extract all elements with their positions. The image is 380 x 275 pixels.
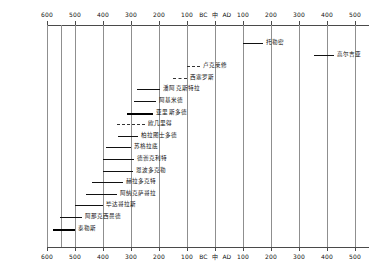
- axis-tick-label: 500: [69, 11, 81, 19]
- bar-label: 阿那克西曼德: [85, 212, 122, 221]
- bar-line: [134, 101, 156, 102]
- era-divider-marker: 中: [212, 253, 218, 261]
- bar-line: [118, 136, 138, 137]
- bar-label: 恩波多克勒: [136, 166, 167, 175]
- timeline-bar[interactable]: 毕达哥拉斯: [75, 201, 103, 210]
- bar-label: 亚里斯多德: [156, 108, 187, 117]
- timeline-bar[interactable]: 恩波多克勒: [103, 167, 133, 176]
- timeline-bar[interactable]: 亚里斯多德: [127, 109, 154, 118]
- axis-tick-label: 400: [321, 11, 333, 19]
- axis-tick-label: 500: [69, 253, 81, 261]
- axis-bottom-rule: [47, 247, 369, 248]
- bar-line: [243, 43, 263, 44]
- axis-tick-label: 500: [349, 253, 361, 261]
- axis-tick-label: 500: [349, 11, 361, 19]
- bar-label: 阿纳克萨哥拉: [120, 189, 157, 198]
- bar-label: 德谫克利特: [137, 154, 168, 163]
- timeline-bar[interactable]: 德谫克利特: [103, 155, 134, 164]
- bar-label: 欧几里得: [148, 119, 172, 128]
- axis-tick: [243, 247, 244, 251]
- axis-tick: [271, 247, 272, 251]
- axis-tick: [103, 247, 104, 251]
- timeline-bar[interactable]: 阿那克西曼德: [60, 213, 82, 222]
- axis-tick-label: 200: [153, 11, 165, 19]
- timeline-chart: 600500400300200100100200300400500BC中AD 6…: [0, 0, 380, 275]
- axis-tick-label: 300: [125, 253, 137, 261]
- era-label-bc: BC: [199, 11, 207, 19]
- axis-tick-label: 300: [293, 11, 305, 19]
- bar-label: 卢克莱修: [203, 61, 227, 70]
- bar-label: 阿基米德: [159, 96, 183, 105]
- axis-tick: [299, 247, 300, 251]
- era-label-bc: BC: [199, 253, 207, 261]
- era-label-ad: AD: [222, 253, 231, 261]
- bar-label: 西塞罗斯: [190, 73, 214, 82]
- bar-line: [106, 147, 131, 148]
- timeline-bar[interactable]: 苏格拉底: [106, 143, 131, 152]
- timeline-bar[interactable]: 西塞罗斯: [173, 74, 187, 83]
- axis-tick: [75, 247, 76, 251]
- era-divider-marker: 中: [212, 11, 218, 19]
- bar-label: 赫拉多克特: [126, 177, 157, 186]
- bar-line: [137, 89, 161, 90]
- bar-line: [103, 171, 133, 172]
- timeline-bar[interactable]: 卢克莱修: [187, 62, 199, 71]
- axis-tick-label: 600: [41, 253, 53, 261]
- bar-label: 潘阿克斯特拉: [163, 84, 200, 93]
- bar-line: [173, 78, 187, 79]
- axis-tick-label: 600: [41, 11, 53, 19]
- bar-line: [86, 194, 117, 195]
- axis-tick: [159, 247, 160, 251]
- bar-line: [187, 66, 199, 67]
- axis-tick: [327, 247, 328, 251]
- axis-tick: [47, 247, 48, 251]
- bar-label: 毕达哥拉斯: [106, 200, 137, 209]
- axis-tick-label: 100: [237, 11, 249, 19]
- axis-tick: [355, 247, 356, 251]
- axis-tick: [215, 247, 216, 251]
- axis-tick-label: 200: [265, 11, 277, 19]
- timeline-bar[interactable]: 潘阿克斯特拉: [137, 85, 161, 94]
- axis-tick-label: 300: [125, 11, 137, 19]
- axis-tick-label: 100: [237, 253, 249, 261]
- timeline-bar[interactable]: 泰勒斯: [53, 225, 75, 234]
- bar-line: [53, 229, 75, 231]
- timeline-bar[interactable]: 赫拉多克特: [92, 178, 123, 187]
- axis-tick: [131, 247, 132, 251]
- timeline-bar[interactable]: 柏拉图士多德: [118, 132, 138, 141]
- bar-line: [127, 113, 154, 115]
- axis-tick-label: 100: [181, 11, 193, 19]
- axis-tick: [187, 247, 188, 251]
- bar-label: 苏格拉底: [134, 142, 158, 151]
- bar-label: 托勒密: [266, 38, 284, 47]
- plot-area: 托勒密高尔吉亚卢克莱修西塞罗斯潘阿克斯特拉阿基米德亚里斯多德欧几里得柏拉图士多德…: [47, 25, 369, 247]
- bar-line: [75, 205, 103, 206]
- timeline-bar[interactable]: 托勒密: [243, 39, 263, 48]
- bar-line: [60, 217, 82, 218]
- axis-tick-label: 400: [321, 253, 333, 261]
- timeline-bar[interactable]: 欧几里得: [117, 120, 145, 129]
- timeline-bar[interactable]: 阿基米德: [134, 97, 156, 106]
- axis-tick-label: 200: [265, 253, 277, 261]
- axis-tick-label: 400: [97, 11, 109, 19]
- bar-label: 柏拉图士多德: [141, 131, 178, 140]
- axis-tick-label: 200: [153, 253, 165, 261]
- axis-tick-label: 100: [181, 253, 193, 261]
- axis-tick-label: 400: [97, 253, 109, 261]
- bar-label: 泰勒斯: [78, 224, 96, 233]
- bar-label: 高尔吉亚: [337, 50, 361, 59]
- bar-line: [92, 182, 123, 183]
- timeline-bar[interactable]: 高尔吉亚: [314, 51, 334, 60]
- era-label-ad: AD: [222, 11, 231, 19]
- bar-line: [314, 55, 334, 56]
- bar-line: [117, 124, 145, 125]
- timeline-bar[interactable]: 阿纳克萨哥拉: [86, 190, 117, 199]
- bar-line: [103, 159, 134, 160]
- axis-tick-label: 300: [293, 253, 305, 261]
